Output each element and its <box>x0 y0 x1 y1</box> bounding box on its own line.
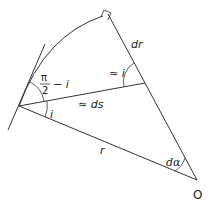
diagram-canvas: dr ≈ i π 2 − i ≈ ds i r dα O <box>0 0 215 206</box>
label-pi: π <box>41 72 47 83</box>
angle-arc-i <box>45 101 47 117</box>
label-r: r <box>100 144 106 157</box>
label-two: 2 <box>42 85 48 96</box>
tangent-line <box>8 44 45 130</box>
label-approx-i: ≈ i <box>109 67 125 80</box>
label-i: i <box>50 108 53 121</box>
label-dr: dr <box>131 38 144 51</box>
label-approx-ds: ≈ ds <box>78 98 104 111</box>
label-origin-o: O <box>193 188 202 202</box>
label-dalpha: dα <box>166 156 181 169</box>
right-angle-marker <box>101 10 111 20</box>
label-minus-i: − i <box>53 78 69 91</box>
radius-line-dr <box>108 14 197 180</box>
angle-arc-approx-i <box>123 63 134 87</box>
